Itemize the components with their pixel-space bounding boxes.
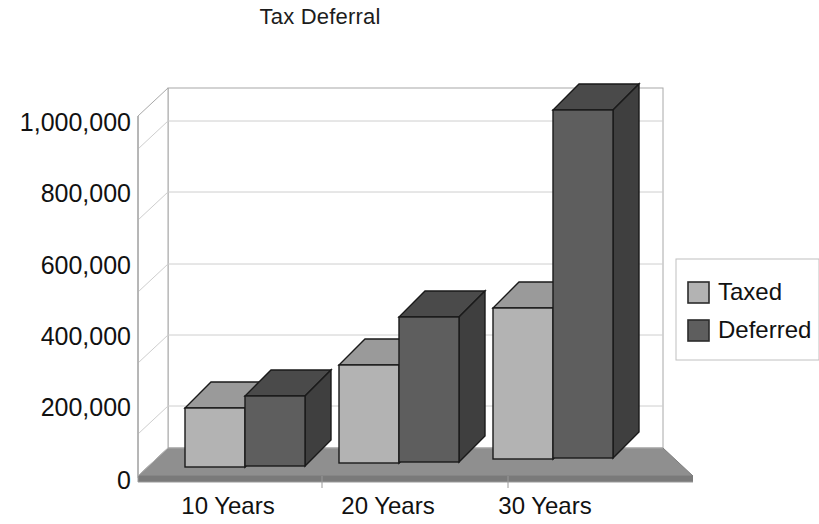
bar-side-face	[613, 84, 639, 458]
floor-front-edge	[138, 476, 693, 482]
chart-canvas: 1,000,000 800,000 600,000 400,000 200,00…	[0, 0, 819, 524]
y-tick-label-400000: 400,000	[41, 322, 131, 350]
legend-swatch-taxed-icon	[688, 282, 709, 303]
legend-label-deferred: Deferred	[718, 316, 811, 343]
bar-front-face	[245, 396, 305, 466]
legend-swatch-deferred-icon	[688, 320, 709, 341]
y-axis-labels: 1,000,000 800,000 600,000 400,000 200,00…	[20, 108, 131, 494]
y-tick-label-800000: 800,000	[41, 179, 131, 207]
y-tick-label-600000: 600,000	[41, 251, 131, 279]
y-tick-label-1000000: 1,000,000	[20, 108, 131, 136]
chart-container: Tax Deferral	[0, 0, 819, 524]
x-axis-labels: 10 Years 20 Years 30 Years	[181, 492, 591, 519]
y-tick-label-200000: 200,000	[41, 393, 131, 421]
bar-front-face	[493, 308, 553, 459]
bar-deferred-30-years[interactable]	[553, 84, 639, 458]
legend-item-taxed[interactable]: Taxed	[688, 278, 782, 305]
bar-front-face	[339, 365, 399, 463]
x-tick-label-10-years: 10 Years	[181, 492, 274, 519]
legend: Taxed Deferred	[676, 259, 819, 360]
y-tick-label-0: 0	[117, 466, 131, 494]
bar-side-face	[459, 291, 485, 462]
bar-deferred-10-years[interactable]	[245, 370, 331, 466]
bar-front-face	[399, 317, 459, 462]
bar-front-face	[553, 110, 613, 458]
legend-box	[676, 259, 819, 360]
x-tick-label-20-years: 20 Years	[341, 492, 434, 519]
bar-deferred-20-years[interactable]	[399, 291, 485, 462]
x-tick-label-30-years: 30 Years	[498, 492, 591, 519]
bar-front-face	[185, 408, 245, 467]
legend-item-deferred[interactable]: Deferred	[688, 316, 811, 343]
legend-label-taxed: Taxed	[718, 278, 782, 305]
